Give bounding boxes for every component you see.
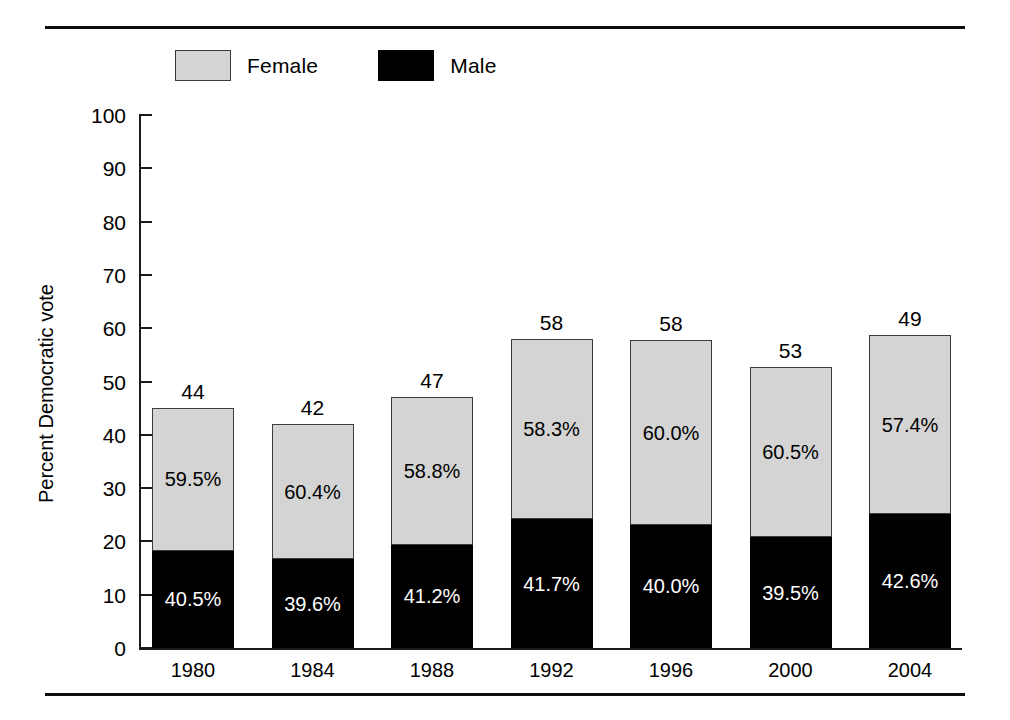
bar-segment-label-female-1988: 58.8% (404, 461, 461, 481)
y-axis-tick (139, 434, 152, 436)
bar-total-label-2004: 49 (869, 308, 951, 329)
bar-total-label-2000: 53 (750, 340, 832, 361)
bar-segment-label-male-1988: 41.2% (404, 586, 461, 606)
bar-total-label-1984: 42 (272, 397, 354, 418)
bar-total-label-1992: 58 (511, 312, 593, 333)
bar-segment-female-1992[interactable]: 58.3% (511, 339, 593, 519)
bar-1992[interactable]: 58.3%41.7% (511, 339, 593, 648)
x-axis-label-1980: 1980 (152, 660, 234, 680)
y-axis-tick (139, 114, 152, 116)
y-axis-tick (139, 647, 152, 649)
bar-segment-label-male-1980: 40.5% (165, 589, 222, 609)
x-axis-label-1996: 1996 (630, 660, 712, 680)
bar-segment-label-male-1992: 41.7% (523, 574, 580, 594)
x-axis-line (139, 648, 962, 650)
y-axis-tick-label: 20 (62, 531, 126, 552)
bar-total-label-1988: 47 (391, 370, 473, 391)
bar-segment-label-male-2004: 42.6% (882, 571, 939, 591)
bar-total-label-1980: 44 (152, 381, 234, 402)
y-axis-tick (139, 594, 152, 596)
bar-segment-label-female-2000: 60.5% (762, 442, 819, 462)
bar-2004[interactable]: 57.4%42.6% (869, 335, 951, 648)
y-axis-tick-label: 80 (62, 212, 126, 233)
bar-1988[interactable]: 58.8%41.2% (391, 397, 473, 648)
stacked-bar-chart: Percent Democratic vote 0102030405060708… (0, 0, 1010, 720)
y-axis-tick (139, 221, 152, 223)
bar-segment-male-1988[interactable]: 41.2% (391, 545, 473, 648)
x-axis-label-2004: 2004 (869, 660, 951, 680)
y-axis-tick (139, 167, 152, 169)
bar-segment-male-1996[interactable]: 40.0% (630, 525, 712, 648)
bar-segment-label-female-1996: 60.0% (643, 423, 700, 443)
bar-segment-female-1988[interactable]: 58.8% (391, 397, 473, 544)
bar-segment-label-female-1992: 58.3% (523, 419, 580, 439)
y-axis-tick-label: 60 (62, 318, 126, 339)
bar-segment-female-1996[interactable]: 60.0% (630, 340, 712, 525)
x-axis-label-1984: 1984 (272, 660, 354, 680)
bar-segment-male-1980[interactable]: 40.5% (152, 551, 234, 648)
x-axis-label-1988: 1988 (391, 660, 473, 680)
bar-2000[interactable]: 60.5%39.5% (750, 367, 832, 648)
y-axis-tick (139, 327, 152, 329)
y-axis-tick (139, 274, 152, 276)
y-axis-tick-label: 40 (62, 425, 126, 446)
y-axis-title: Percent Democratic vote (35, 134, 58, 654)
y-axis-tick (139, 487, 152, 489)
bar-segment-female-2000[interactable]: 60.5% (750, 367, 832, 537)
bar-segment-label-female-1980: 59.5% (165, 469, 222, 489)
bar-segment-label-male-1984: 39.6% (284, 594, 341, 614)
bar-segment-female-1980[interactable]: 59.5% (152, 408, 234, 551)
bar-segment-label-female-1984: 60.4% (284, 482, 341, 502)
bar-segment-female-2004[interactable]: 57.4% (869, 335, 951, 515)
x-axis-label-1992: 1992 (511, 660, 593, 680)
bar-segment-label-male-2000: 39.5% (762, 583, 819, 603)
bar-segment-label-female-2004: 57.4% (882, 415, 939, 435)
bar-segment-male-2004[interactable]: 42.6% (869, 514, 951, 648)
bar-segment-male-2000[interactable]: 39.5% (750, 537, 832, 648)
y-axis-tick-label: 0 (62, 638, 126, 659)
y-axis-tick-label: 30 (62, 478, 126, 499)
y-axis-tick-label: 100 (62, 105, 126, 126)
bar-1984[interactable]: 60.4%39.6% (272, 424, 354, 648)
y-axis-tick-label: 10 (62, 585, 126, 606)
y-axis-tick (139, 381, 152, 383)
x-axis-label-2000: 2000 (750, 660, 832, 680)
bar-segment-female-1984[interactable]: 60.4% (272, 424, 354, 559)
y-axis-tick-label: 70 (62, 265, 126, 286)
bar-segment-male-1984[interactable]: 39.6% (272, 559, 354, 648)
bar-segment-male-1992[interactable]: 41.7% (511, 519, 593, 648)
y-axis-tick-label: 50 (62, 372, 126, 393)
bar-segment-label-male-1996: 40.0% (643, 576, 700, 596)
y-axis-tick-label: 90 (62, 158, 126, 179)
y-axis-tick (139, 540, 152, 542)
bar-1980[interactable]: 59.5%40.5% (152, 408, 234, 648)
bar-1996[interactable]: 60.0%40.0% (630, 340, 712, 648)
bar-total-label-1996: 58 (630, 313, 712, 334)
